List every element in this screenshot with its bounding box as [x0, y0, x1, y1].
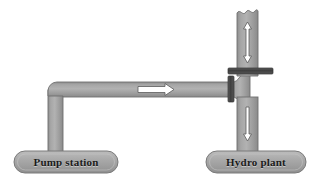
- station-box-hydro-plant[interactable]: [206, 151, 306, 173]
- pumped-storage-schematic: [0, 0, 311, 187]
- valve-vertical-bar-body: [228, 76, 234, 102]
- diagram-canvas: Pump station Hydro plant: [0, 0, 311, 187]
- pump-riser-body: [48, 90, 63, 158]
- station-box-pump-station[interactable]: [14, 151, 118, 173]
- valve-vertical-bar: [228, 76, 234, 102]
- valve-horizontal-bar-body: [228, 68, 273, 74]
- valve-horizontal-bar: [228, 68, 273, 74]
- pipe-pump-riser: [48, 90, 63, 158]
